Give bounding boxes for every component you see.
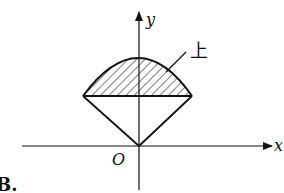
triangle-right-side (139, 96, 192, 146)
figure-option-label: B. (0, 176, 17, 193)
leader-line (166, 52, 186, 72)
x-axis-label: x (274, 138, 283, 154)
diagram-canvas: y x O 上 B. (0, 0, 284, 193)
y-axis-label: y (146, 12, 155, 28)
triangle-left-side (83, 96, 139, 146)
coordinate-diagram (0, 0, 284, 193)
region-label: 上 (190, 42, 208, 60)
origin-label: O (112, 152, 125, 168)
